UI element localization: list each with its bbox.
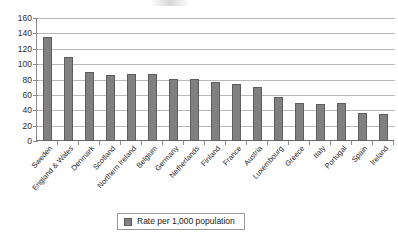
bar-slot	[163, 18, 184, 141]
scan-artifact	[150, 0, 190, 6]
bar-slot	[373, 18, 394, 141]
x-label-slot: Italy	[310, 145, 331, 203]
x-axis-labels: SwedenEngland & WalesDenmarkScotlandNort…	[37, 145, 394, 203]
y-axis-tick-label: 80	[2, 76, 32, 85]
x-label-slot: Northern Ireland	[121, 145, 142, 203]
bar-slot	[58, 18, 79, 141]
y-axis-tick-label: 120	[2, 45, 32, 54]
x-label-slot: Netherlands	[184, 145, 205, 203]
bar-slot	[268, 18, 289, 141]
bar	[337, 103, 346, 141]
bar	[43, 37, 52, 141]
y-axis-tick-label: 0	[2, 137, 32, 146]
y-axis-tick-label: 100	[2, 60, 32, 69]
y-axis-tick-label: 140	[2, 29, 32, 38]
y-axis-tick-label: 60	[2, 91, 32, 100]
x-label-slot: France	[226, 145, 247, 203]
bar-slot	[226, 18, 247, 141]
bar-slot	[331, 18, 352, 141]
x-label-slot: Greece	[289, 145, 310, 203]
x-label-slot: England & Wales	[58, 145, 79, 203]
y-axis-labels: 020406080100120140160	[0, 18, 32, 141]
y-axis-tick-label: 20	[2, 122, 32, 131]
bar-slot	[100, 18, 121, 141]
y-axis-tick-label: 40	[2, 106, 32, 115]
x-label-slot: Luxembourg	[268, 145, 289, 203]
bar-chart: 020406080100120140160 SwedenEngland & Wa…	[0, 0, 398, 246]
legend-label: Rate per 1,000 population	[137, 217, 235, 226]
legend-swatch-icon	[124, 218, 132, 226]
chart-legend: Rate per 1,000 population	[117, 213, 245, 230]
y-axis-tick-label: 160	[2, 14, 32, 23]
bar-slot	[352, 18, 373, 141]
bar-slot	[37, 18, 58, 141]
bar-slot	[121, 18, 142, 141]
bar-slot	[184, 18, 205, 141]
bar-slot	[310, 18, 331, 141]
x-label-slot: Denmark	[79, 145, 100, 203]
x-label-slot: Belgium	[142, 145, 163, 203]
x-label-slot: Finland	[205, 145, 226, 203]
x-label-slot: Spain	[352, 145, 373, 203]
x-label-slot: Ireland	[373, 145, 394, 203]
x-label-slot: Portugal	[331, 145, 352, 203]
bar-slot	[247, 18, 268, 141]
